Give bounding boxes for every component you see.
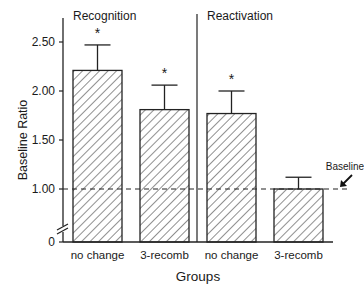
bar	[73, 70, 122, 242]
baseline-arrow-icon	[343, 175, 352, 184]
significance-marker: *	[95, 25, 101, 41]
bar	[140, 110, 189, 242]
y-tick-label: 0	[48, 235, 55, 249]
y-axis-title: Baseline Ratio	[16, 100, 30, 181]
bar	[207, 114, 256, 242]
x-axis-title: Groups	[176, 269, 221, 284]
panel-label: Reactivation	[207, 9, 273, 23]
significance-marker: *	[162, 65, 168, 81]
x-tick-label: 3-recomb	[140, 249, 189, 261]
x-tick-label: no change	[71, 249, 125, 261]
bar	[274, 189, 323, 242]
y-tick-label: 1.50	[32, 133, 56, 147]
y-tick-label: 2.50	[32, 35, 56, 49]
baseline-label: Baseline	[326, 161, 364, 172]
y-tick-label: 1.00	[32, 182, 56, 196]
panel-label: Recognition	[73, 9, 136, 23]
bar-chart: 01.001.502.002.50Baseline RatioGroupsRec…	[0, 0, 364, 296]
x-tick-label: no change	[205, 249, 259, 261]
x-tick-label: 3-recomb	[274, 249, 323, 261]
y-tick-label: 2.00	[32, 84, 56, 98]
significance-marker: *	[229, 71, 235, 87]
